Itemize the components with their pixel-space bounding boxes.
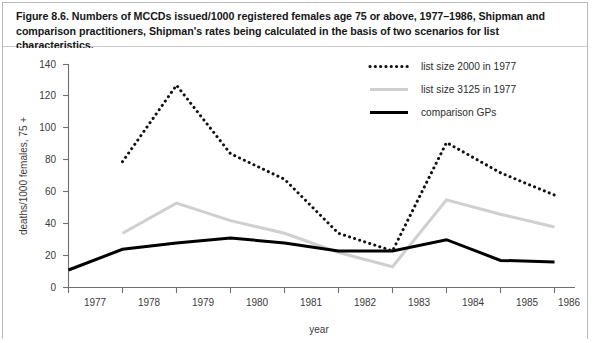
x-tick-label-1985: 1985 [516,297,539,308]
figure-caption: Figure 8.6. Numbers of MCCDs issued/1000… [16,9,576,53]
y-tick-label-80: 80 [45,154,57,165]
y-tick-group: 0 20 40 60 80 100 120 140 [39,59,68,293]
x-tick-label-1977: 1977 [84,297,107,308]
x-tick-label-1983: 1983 [408,297,431,308]
x-tick-label-1986: 1986 [558,297,581,308]
x-tick-label-1982: 1982 [354,297,377,308]
x-tick-label-1980: 1980 [246,297,269,308]
y-tick-label-140: 140 [39,59,56,70]
legend-label-comparison-gps: comparison GPs [421,107,496,118]
y-tick-label-100: 100 [39,122,56,133]
x-tick-label-1981: 1981 [300,297,323,308]
line-chart: 0 20 40 60 80 100 120 140 [3,48,587,339]
x-tick-group: 1977 1978 1979 1980 1981 1982 1983 1984 … [69,288,581,309]
figure-caption-band: Figure 8.6. Numbers of MCCDs issued/1000… [3,3,587,47]
y-tick-label-20: 20 [45,250,57,261]
y-tick-label-40: 40 [45,218,57,229]
figure-container: Figure 8.6. Numbers of MCCDs issued/1000… [0,0,592,343]
y-tick-label-120: 120 [39,90,56,101]
y-axis-title: deaths/1000 females, 75 + [18,117,29,235]
legend-label-list-size-2000: list size 2000 in 1977 [421,61,516,72]
plot-area: 0 20 40 60 80 100 120 140 [3,48,587,339]
x-axis-title: year [309,324,329,335]
legend-label-list-size-3125: list size 3125 in 1977 [421,84,516,95]
x-tick-label-1984: 1984 [462,297,485,308]
x-tick-label-1979: 1979 [192,297,215,308]
y-tick-label-0: 0 [50,282,56,293]
chart-legend: list size 2000 in 1977 list size 3125 in… [370,61,516,118]
x-tick-label-1978: 1978 [138,297,161,308]
y-tick-label-60: 60 [45,186,57,197]
